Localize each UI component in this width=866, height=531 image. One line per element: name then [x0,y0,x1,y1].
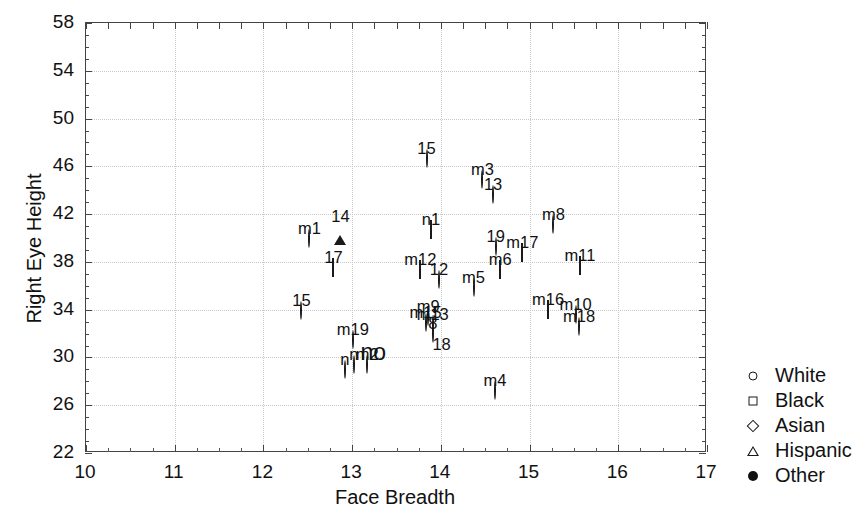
y-axis-minor-tick [702,202,706,203]
x-axis-tick [175,22,176,29]
y-axis-minor-tick [85,190,89,191]
x-axis-minor-tick [507,22,508,29]
legend: WhiteBlackAsianHispanicOther [742,363,852,488]
x-axis-tick [530,22,531,29]
x-axis-minor-tick [640,22,641,29]
x-axis-minor-tick [286,22,287,29]
y-axis-minor-tick [702,107,706,108]
x-axis-minor-tick [219,22,220,29]
legend-label: White [775,364,826,387]
y-axis-tick [85,166,92,167]
y-axis-tick [85,214,92,215]
y-axis-minor-tick [85,107,89,108]
open-triangle-marker-icon [747,446,759,456]
x-axis-minor-tick [596,448,597,452]
x-axis-minor-tick [463,448,464,452]
legend-symbol [742,365,764,387]
y-axis-minor-tick [85,346,89,347]
x-axis-minor-tick [374,448,375,452]
y-axis-tick [85,23,92,24]
data-point-label: n1 [422,210,440,229]
y-axis-minor-tick [85,250,89,251]
data-point-label: m5 [462,268,485,287]
y-axis-minor-tick [702,47,706,48]
y-tick-label: 26 [40,393,74,415]
y-axis-minor-tick [702,178,706,179]
legend-item-white[interactable]: White [742,363,852,388]
x-tick-label: 12 [252,461,273,483]
open-diamond-marker-icon [747,419,760,432]
data-point-label: m17 [506,233,538,252]
legend-item-other[interactable]: Other [742,463,852,488]
y-axis-minor-tick [702,429,706,430]
x-tick-label: 15 [518,461,539,483]
x-axis-minor-tick [130,448,131,452]
x-tick-label: 16 [607,461,628,483]
y-axis-minor-tick [702,417,706,418]
y-axis-minor-tick [702,286,706,287]
data-point-label: n [340,350,349,369]
plot-area [85,22,706,452]
x-tick-label: 13 [341,461,362,483]
data-point-label: 18 [432,335,450,354]
x-axis-minor-tick [108,22,109,29]
y-axis-minor-tick [702,226,706,227]
x-axis-tick [530,445,531,452]
y-axis-minor-tick [85,154,89,155]
x-axis-minor-tick [552,448,553,452]
gridline-vertical [263,23,264,451]
x-axis-minor-tick [197,448,198,452]
y-axis-minor-tick [85,381,89,382]
x-axis-minor-tick [130,22,131,29]
x-axis-minor-tick [574,22,575,29]
data-point-label: 15 [417,139,435,158]
gridline-horizontal [86,71,705,72]
x-axis-minor-tick [241,448,242,452]
y-axis-minor-tick [85,369,89,370]
x-axis-tick [441,22,442,29]
y-axis-tick [699,453,706,454]
x-tick-label: 11 [164,461,184,483]
y-axis-minor-tick [85,35,89,36]
data-point-label: m11 [565,246,596,265]
legend-item-black[interactable]: Black [742,388,852,413]
x-axis-minor-tick [685,448,686,452]
data-point-label: 14 [331,207,349,226]
legend-item-hispanic[interactable]: Hispanic [742,438,852,463]
y-axis-tick [85,119,92,120]
y-axis-minor-tick [702,83,706,84]
data-point-label: 19 [487,227,505,246]
y-axis-tick [699,310,706,311]
y-axis-title: Right Eye Height [23,119,46,379]
x-axis-tick [86,445,87,452]
y-axis-tick [85,405,92,406]
y-axis-minor-tick [85,83,89,84]
y-axis-minor-tick [85,393,89,394]
x-axis-minor-tick [552,22,553,29]
x-axis-minor-tick [485,22,486,29]
x-axis-tick [618,22,619,29]
gridline-horizontal [86,214,705,215]
y-axis-minor-tick [702,131,706,132]
x-axis-minor-tick [153,22,154,29]
x-axis-tick [352,22,353,29]
x-axis-tick [707,445,708,452]
y-axis-tick [699,405,706,406]
data-point-label: m19 [337,320,369,339]
legend-item-asian[interactable]: Asian [742,413,852,438]
x-axis-minor-tick [663,448,664,452]
legend-label: Black [775,389,824,412]
y-tick-label: 22 [40,441,74,463]
x-axis-minor-tick [308,22,309,29]
gridline-vertical [441,23,442,451]
y-axis-minor-tick [85,417,89,418]
x-axis-minor-tick [507,448,508,452]
x-axis-minor-tick [419,448,420,452]
x-axis-minor-tick [397,22,398,29]
x-tick-label: 10 [74,461,95,483]
y-axis-minor-tick [702,334,706,335]
gridline-horizontal [86,262,705,263]
y-tick-label: 58 [40,11,74,33]
y-axis-tick [85,262,92,263]
gridline-horizontal [86,310,705,311]
